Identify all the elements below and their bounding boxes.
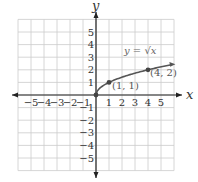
svg-text:−5: −5 bbox=[79, 153, 94, 164]
point-label-1-1: (1, 1) bbox=[112, 80, 139, 91]
svg-text:−1: −1 bbox=[79, 102, 94, 113]
svg-text:1: 1 bbox=[88, 77, 94, 88]
svg-text:5: 5 bbox=[158, 97, 164, 108]
svg-text:4: 4 bbox=[88, 39, 94, 50]
svg-text:1: 1 bbox=[106, 97, 112, 108]
svg-text:4: 4 bbox=[145, 97, 151, 108]
svg-text:3: 3 bbox=[132, 97, 138, 108]
function-graph: −5−4−3−2−112345−5−4−3−2−112345 x y y = √… bbox=[0, 0, 198, 182]
svg-text:−2: −2 bbox=[79, 115, 94, 126]
x-axis-label: x bbox=[186, 87, 194, 102]
svg-text:2: 2 bbox=[119, 97, 125, 108]
svg-text:2: 2 bbox=[88, 64, 94, 75]
svg-text:5: 5 bbox=[88, 27, 94, 38]
equation-label: y = √x bbox=[123, 45, 157, 56]
svg-text:−4: −4 bbox=[79, 140, 94, 151]
y-axis-label: y bbox=[91, 0, 100, 13]
svg-text:3: 3 bbox=[88, 52, 94, 63]
svg-text:−3: −3 bbox=[79, 127, 94, 138]
point-label-4-2: (4, 2) bbox=[150, 67, 177, 78]
